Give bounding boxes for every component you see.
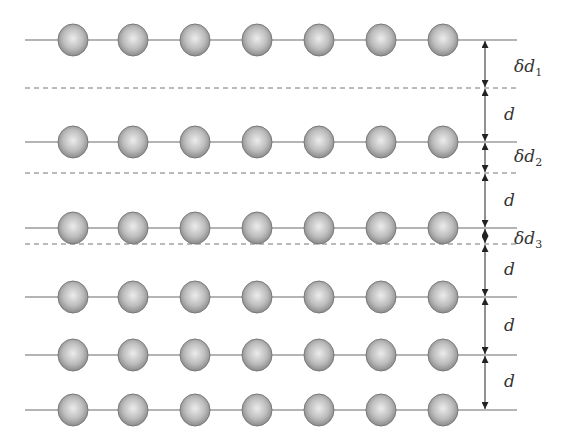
- atom-icon: [58, 212, 88, 244]
- spacing-labels: δd1dδd2dδd3ddd: [504, 56, 542, 391]
- layer-5: [25, 339, 517, 371]
- atom-icon: [428, 394, 458, 426]
- atom-icon: [58, 394, 88, 426]
- atom-icon: [118, 339, 148, 371]
- atom-icon: [180, 24, 210, 56]
- atom-icon: [118, 394, 148, 426]
- spacing-label-5: δd3: [514, 228, 542, 251]
- spacing-label-6: d: [504, 259, 515, 279]
- layer-4: [25, 281, 517, 313]
- atomic-layers: [25, 24, 517, 426]
- atom-icon: [428, 126, 458, 158]
- spacing-label-1: δd1: [514, 56, 542, 79]
- atom-icon: [118, 281, 148, 313]
- atom-icon: [118, 212, 148, 244]
- atom-icon: [58, 339, 88, 371]
- atom-icon: [304, 339, 334, 371]
- atom-icon: [366, 281, 396, 313]
- spacing-label-3: δd2: [514, 146, 542, 169]
- spacing-label-7: d: [504, 315, 515, 335]
- atom-icon: [428, 339, 458, 371]
- atom-icon: [428, 212, 458, 244]
- atom-icon: [180, 212, 210, 244]
- atom-icon: [242, 339, 272, 371]
- layer-spacing-diagram: δd1dδd2dδd3ddd: [0, 0, 566, 444]
- atom-icon: [242, 212, 272, 244]
- atom-icon: [118, 24, 148, 56]
- atom-icon: [118, 126, 148, 158]
- atom-icon: [304, 24, 334, 56]
- layer-6: [25, 394, 517, 426]
- atom-icon: [242, 24, 272, 56]
- atom-icon: [428, 281, 458, 313]
- atom-icon: [366, 212, 396, 244]
- layer-1: [25, 24, 517, 56]
- atom-icon: [180, 126, 210, 158]
- atom-icon: [242, 281, 272, 313]
- atom-icon: [242, 126, 272, 158]
- atom-icon: [304, 394, 334, 426]
- atom-icon: [304, 126, 334, 158]
- atom-icon: [428, 24, 458, 56]
- atom-icon: [58, 24, 88, 56]
- spacing-label-8: d: [504, 371, 515, 391]
- spacing-label-4: d: [504, 190, 515, 210]
- atom-icon: [304, 212, 334, 244]
- atom-icon: [366, 339, 396, 371]
- layer-2: [25, 126, 517, 158]
- atom-icon: [366, 394, 396, 426]
- atom-icon: [180, 394, 210, 426]
- atom-icon: [304, 281, 334, 313]
- atom-icon: [242, 394, 272, 426]
- atom-icon: [180, 339, 210, 371]
- atom-icon: [366, 126, 396, 158]
- spacing-label-2: d: [504, 104, 515, 124]
- atom-icon: [366, 24, 396, 56]
- atom-icon: [180, 281, 210, 313]
- atom-icon: [58, 281, 88, 313]
- atom-icon: [58, 126, 88, 158]
- layer-3: [25, 212, 517, 244]
